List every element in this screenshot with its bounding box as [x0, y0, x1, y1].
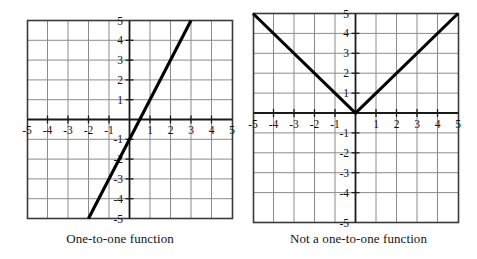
x-tick-label: 5 [455, 118, 461, 130]
y-tick-label: 2 [117, 74, 123, 86]
figure-root: -5 -4 -3 -2 -1 1 2 3 4 5 5 4 3 2 1 -1 -2… [0, 0, 477, 259]
y-tick-label: -3 [339, 167, 349, 179]
y-tick-label: 3 [117, 54, 123, 66]
x-tick-label: 3 [188, 124, 194, 136]
caption-one-to-one: One-to-one function [0, 231, 240, 246]
y-tick-labels: 5 4 3 2 1 -1 -2 -3 -4 -5 [339, 8, 349, 229]
y-tick-label: 3 [343, 47, 349, 59]
y-tick-label: -5 [113, 213, 123, 225]
y-tick-label: -2 [339, 147, 349, 159]
x-tick-label: 1 [373, 118, 379, 130]
y-tick-label: 4 [343, 27, 349, 39]
y-tick-label: 4 [117, 34, 123, 46]
x-tick-label: 2 [168, 124, 174, 136]
x-tick-label: 4 [209, 124, 215, 136]
x-tick-label: -4 [269, 118, 279, 130]
y-tick-label: -1 [113, 133, 123, 145]
y-tick-label: 1 [343, 87, 349, 99]
y-tick-label: -1 [339, 127, 349, 139]
x-tick-label: -3 [289, 118, 299, 130]
plot-not-one-to-one: -5 -4 -3 -2 -1 1 2 3 4 5 5 4 3 2 1 -1 -2… [240, 0, 477, 231]
caption-not-one-to-one: Not a one-to-one function [240, 231, 477, 246]
x-tick-label: 5 [229, 124, 235, 136]
x-tick-label: -2 [84, 124, 94, 136]
panel-not-one-to-one: -5 -4 -3 -2 -1 1 2 3 4 5 5 4 3 2 1 -1 -2… [240, 0, 477, 259]
y-tick-label: -3 [113, 173, 123, 185]
y-tick-label: -5 [339, 217, 349, 229]
x-tick-label: 2 [394, 118, 400, 130]
x-tick-label: -3 [63, 124, 73, 136]
y-tick-label: -4 [339, 187, 349, 199]
x-tick-label: -2 [310, 118, 320, 130]
x-tick-label: 4 [435, 118, 441, 130]
y-tick-label: 5 [343, 8, 349, 20]
x-tick-label: 1 [147, 124, 153, 136]
x-tick-label: -5 [22, 124, 32, 136]
y-tick-label: -4 [113, 193, 123, 205]
x-tick-label: 3 [414, 118, 420, 130]
y-tick-label: 2 [343, 67, 349, 79]
plot-one-to-one: -5 -4 -3 -2 -1 1 2 3 4 5 5 4 3 2 1 -1 -2… [0, 0, 240, 231]
x-tick-label: -5 [248, 118, 258, 130]
panel-one-to-one: -5 -4 -3 -2 -1 1 2 3 4 5 5 4 3 2 1 -1 -2… [0, 0, 240, 259]
y-tick-label: 1 [117, 94, 123, 106]
x-tick-label: -4 [43, 124, 53, 136]
y-tick-label: 5 [117, 15, 123, 27]
